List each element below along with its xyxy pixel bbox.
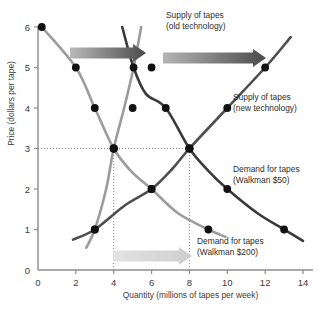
supply-new-label: Supply of tapes(new technology) <box>233 92 297 113</box>
x-tick-label-4: 4 <box>111 277 116 288</box>
data-point-supply-old <box>148 64 156 72</box>
x-tick-label-0: 0 <box>35 277 40 288</box>
data-point-demand-old <box>38 23 46 31</box>
data-point-supply-new <box>91 226 99 234</box>
curve-supply-new <box>73 37 291 240</box>
x-tick-label-8: 8 <box>187 277 192 288</box>
x-tick-label-10: 10 <box>222 277 233 288</box>
data-point-demand-new <box>223 185 231 193</box>
y-tick-label-3: 3 <box>25 143 30 154</box>
data-point-demand-old <box>72 64 80 72</box>
supply-shift-arrow-left <box>70 44 146 62</box>
equilibrium-point-q8 <box>185 144 193 152</box>
y-tick-label-0: 0 <box>25 265 30 276</box>
x-axis-title: Quantity (millions of tapes per week) <box>123 290 259 300</box>
data-point-supply-new <box>261 64 269 72</box>
chart-canvas: 012345602468101214Supply of tapes(old te… <box>0 0 324 314</box>
demand-old-label: Demand for tapes(Walkman $200) <box>197 236 264 257</box>
data-point-supply-old <box>129 104 137 112</box>
demand-new-label-line-1: Demand for tapes <box>233 164 300 174</box>
equilibrium-point-q4 <box>110 144 118 152</box>
y-tick-label-2: 2 <box>25 184 30 195</box>
demand-old-label-line-1: Demand for tapes <box>197 236 264 246</box>
data-point-supply-new <box>223 104 231 112</box>
demand-new-label-line-2: (Walkman $50) <box>233 175 290 185</box>
supply-old-label-line-2: (old technology) <box>166 21 226 31</box>
data-point-demand-old <box>148 185 156 193</box>
data-point-demand-new <box>280 226 288 234</box>
supply-demand-chart: 012345602468101214Supply of tapes(old te… <box>0 0 324 314</box>
data-point-demand-old <box>91 104 99 112</box>
supply-new-label-line-1: Supply of tapes <box>233 92 291 102</box>
y-tick-label-1: 1 <box>25 224 30 235</box>
supply-old-label-line-1: Supply of tapes <box>166 10 224 20</box>
data-point-demand-new <box>162 104 170 112</box>
demand-new-label: Demand for tapes(Walkman $50) <box>233 164 300 185</box>
y-tick-label-4: 4 <box>25 103 30 114</box>
supply-new-label-line-2: (new technology) <box>233 103 297 113</box>
y-axis-title: Price (dollars per tape) <box>6 61 16 146</box>
y-tick-label-6: 6 <box>25 22 30 33</box>
x-tick-label-14: 14 <box>298 277 309 288</box>
demand-old-label-line-2: (Walkman $200) <box>197 247 258 257</box>
y-tick-label-5: 5 <box>25 62 30 73</box>
demand-shift-arrow <box>113 247 192 265</box>
x-tick-label-12: 12 <box>260 277 271 288</box>
supply-shift-arrow-right <box>163 49 266 67</box>
data-point-demand-old <box>204 226 212 234</box>
x-tick-label-2: 2 <box>73 277 78 288</box>
supply-old-label: Supply of tapes(old technology) <box>166 10 226 31</box>
x-tick-label-6: 6 <box>149 277 154 288</box>
data-point-demand-new <box>130 64 138 72</box>
